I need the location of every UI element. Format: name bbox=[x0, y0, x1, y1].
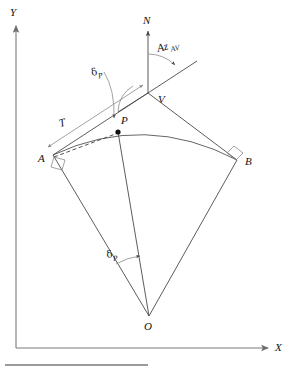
delta-top-angle-group bbox=[104, 72, 133, 118]
tangent-length-label: T bbox=[58, 116, 68, 129]
point-marker-p bbox=[115, 129, 120, 134]
radius-o-to-a bbox=[53, 155, 149, 316]
azimuth-label-group: Az AV bbox=[155, 37, 182, 57]
delta-bottom-label-group: δ P bbox=[105, 247, 118, 264]
delta-top-label-subscript: P bbox=[96, 70, 104, 80]
point-markers-group bbox=[115, 129, 120, 134]
point-label-o: O bbox=[144, 320, 152, 332]
x-axis-label: X bbox=[274, 341, 283, 353]
point-label-a: A bbox=[37, 152, 45, 164]
tangent-label-group: T bbox=[58, 116, 68, 129]
radius-o-to-b bbox=[149, 160, 237, 316]
azimuth-arc bbox=[148, 54, 175, 65]
azimuth-angle-group bbox=[148, 54, 175, 65]
delta-bottom-label-subscript: P bbox=[111, 253, 118, 263]
right-angle-marker-b bbox=[227, 146, 243, 160]
tangent-lines-group bbox=[53, 61, 237, 160]
delta-bottom-angle-group bbox=[116, 256, 140, 264]
point-label-v: V bbox=[158, 93, 166, 105]
bottom-rule bbox=[5, 364, 148, 366]
azimuth-label-subscript: AV bbox=[169, 43, 182, 54]
point-label-n: N bbox=[142, 14, 151, 26]
figure-container: Y X N V A B P O Az AV δ P T bbox=[0, 0, 286, 372]
point-label-b: B bbox=[245, 155, 252, 167]
delta-top-leader-arc bbox=[104, 72, 114, 118]
y-axis-label: Y bbox=[10, 6, 18, 18]
radius-o-to-p bbox=[118, 132, 149, 316]
radii-group bbox=[53, 132, 237, 316]
coordinate-axes bbox=[16, 26, 268, 348]
delta-top-label-group: δ P bbox=[90, 65, 104, 82]
point-label-p: P bbox=[120, 114, 128, 126]
delta-bottom-angle-arc bbox=[116, 256, 140, 264]
azimuth-label: Az bbox=[155, 39, 170, 54]
geometry-diagram: Y X N V A B P O Az AV δ P T bbox=[0, 0, 286, 372]
